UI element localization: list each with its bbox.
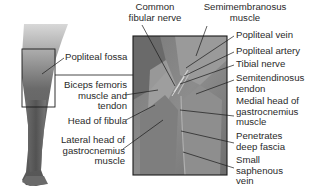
label-line: muscle xyxy=(45,156,125,167)
label-line: deep fascia xyxy=(236,142,285,153)
label-popliteal-artery: Popliteal artery xyxy=(236,46,300,57)
label-line: Penetrates xyxy=(236,131,285,142)
label-line: Popliteal fossa xyxy=(65,52,127,63)
label-line: Medial head of xyxy=(236,96,299,107)
label-line: Biceps femoris xyxy=(50,80,127,91)
dissection-panel xyxy=(133,36,227,175)
label-popliteal-vein: Popliteal vein xyxy=(236,30,293,41)
label-semimembranosus-muscle: Semimembranosus muscle xyxy=(198,2,292,23)
label-popliteal-fossa: Popliteal fossa xyxy=(65,52,127,63)
label-line: Head of fibula xyxy=(50,116,127,127)
label-line: tendon xyxy=(50,101,127,112)
label-penetrates-deep-fascia: Penetrates deep fascia xyxy=(236,131,285,152)
label-line: fibular nerve xyxy=(120,13,190,24)
label-line: muscle xyxy=(236,117,299,128)
label-line: muscle xyxy=(198,13,292,24)
label-small-saphenous-vein: Small saphenous vein xyxy=(236,155,283,187)
label-head-of-fibula: Head of fibula xyxy=(50,116,127,127)
label-line: Small xyxy=(236,155,283,166)
label-line: Semitendinosus xyxy=(236,73,304,84)
label-line: Semimembranosus xyxy=(198,2,292,13)
label-semitendinosus-tendon: Semitendinosus tendon xyxy=(236,73,304,94)
label-common-fibular-nerve: Common fibular nerve xyxy=(120,2,190,23)
label-line: vein xyxy=(236,176,283,187)
label-line: Common xyxy=(120,2,190,13)
label-lateral-head-gastrocnemius: Lateral head of gastrocnemius muscle xyxy=(45,135,125,167)
label-line: Popliteal artery xyxy=(236,46,300,57)
label-biceps-femoris: Biceps femoris muscle and tendon xyxy=(50,80,127,112)
label-line: Popliteal vein xyxy=(236,30,293,41)
label-line: Lateral head of xyxy=(45,135,125,146)
anatomy-diagram: Common fibular nerve Semimembranosus mus… xyxy=(0,0,318,192)
label-medial-head-gastrocnemius: Medial head of gastrocnemius muscle xyxy=(236,96,299,128)
label-tibial-nerve: Tibial nerve xyxy=(236,59,285,70)
label-line: tendon xyxy=(236,84,304,95)
label-line: Tibial nerve xyxy=(236,59,285,70)
